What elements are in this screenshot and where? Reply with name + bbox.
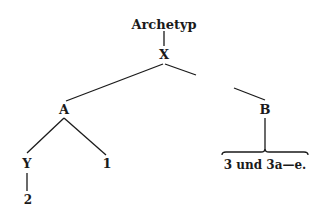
node-2: 2 [24,193,32,207]
edge-x-a [66,64,163,101]
node-y: Y [21,156,32,171]
node-x: X [159,47,170,62]
edge-x-b-lower [234,88,265,100]
node-a: A [58,102,70,117]
node-b-children: 3 und 3a—e. [224,158,306,172]
edge-x-b-upper [165,64,196,75]
node-1: 1 [102,156,111,171]
edge-a-y [27,118,64,153]
edge-a-1 [64,118,106,155]
stemma-diagram: Archetyp X A B Y 1 2 3 und 3a—e. [0,0,328,216]
brace [222,149,308,155]
node-archetyp: Archetyp [130,17,196,32]
node-b: B [260,102,271,117]
